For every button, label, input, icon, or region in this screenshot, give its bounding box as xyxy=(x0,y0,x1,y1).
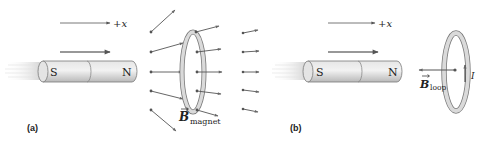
x-axis-label: +x xyxy=(378,18,392,29)
panel-b-label: (b) xyxy=(290,123,302,133)
magnet-end-face xyxy=(303,61,313,82)
current-label: I xyxy=(470,71,475,81)
b-loop-symbol: B xyxy=(419,78,429,91)
b-loop-subscript: loop xyxy=(430,83,446,92)
distant-field-vectors xyxy=(242,30,259,112)
x-axis-indicator: +x xyxy=(328,18,392,29)
motion-trail xyxy=(5,62,43,80)
north-pole-label: N xyxy=(388,66,398,79)
panel-a-label: (a) xyxy=(27,123,38,133)
lenz-law-diagram: +x S N xyxy=(0,0,486,144)
x-axis-indicator: +x xyxy=(60,18,127,29)
magnet-field-vectors xyxy=(150,10,183,131)
panel-b: +x S N I xyxy=(272,18,475,133)
bar-magnet: S N xyxy=(38,61,137,82)
x-axis-label: +x xyxy=(113,18,127,29)
b-magnet-symbol: B xyxy=(178,110,189,124)
south-pole-label: S xyxy=(50,66,58,79)
b-magnet-subscript: magnet xyxy=(190,117,221,126)
north-pole-label: N xyxy=(122,66,132,79)
panel-a: +x S N xyxy=(5,10,259,133)
wire-loop xyxy=(444,33,468,111)
motion-trail xyxy=(272,62,308,80)
south-pole-label: S xyxy=(316,66,324,79)
bar-magnet: S N xyxy=(303,61,402,82)
magnet-end-face xyxy=(38,61,48,82)
